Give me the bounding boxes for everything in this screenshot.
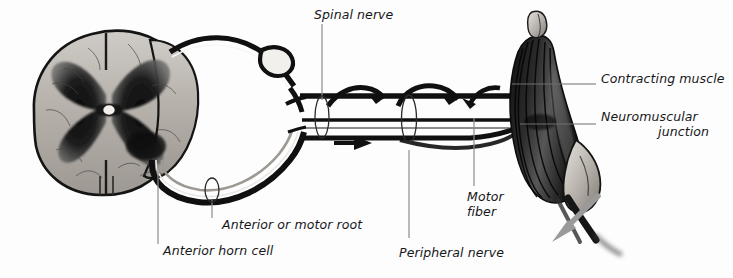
central-canal	[103, 105, 116, 116]
distal-tendon-fade	[596, 236, 620, 254]
label-neuromuscular-junction-line2: junction	[601, 125, 709, 139]
label-spinal-nerve: Spinal nerve	[314, 8, 393, 22]
illustration-canvas	[0, 0, 733, 278]
label-anterior-horn-cell: Anterior horn cell	[163, 244, 273, 258]
label-motor-fiber-line2: fiber	[467, 205, 496, 219]
marker-spinal-nerve	[315, 96, 329, 138]
neuromuscular-junction-zone	[524, 114, 556, 130]
nerve-lower-border	[302, 130, 512, 138]
peripheral-nerve-trunk	[286, 86, 520, 148]
label-motor-fiber-line1: Motor	[467, 190, 504, 204]
label-contracting-muscle: Contracting muscle	[601, 72, 725, 86]
dorsal-root-ganglion	[260, 47, 293, 76]
nerve-taper-bottom	[288, 127, 306, 132]
anterior-horn-cell-region	[126, 132, 166, 160]
nerve-taper-top	[286, 97, 306, 104]
muscle-upper-tendon	[528, 11, 547, 37]
label-anterior-or-motor-root: Anterior or motor root	[222, 218, 362, 232]
anatomical-figure: Spinal nerve Contracting muscle Neuromus…	[0, 0, 733, 278]
label-neuromuscular-junction-line1: Neuromuscular	[601, 110, 698, 124]
label-peripheral-nerve: Peripheral nerve	[399, 246, 504, 260]
